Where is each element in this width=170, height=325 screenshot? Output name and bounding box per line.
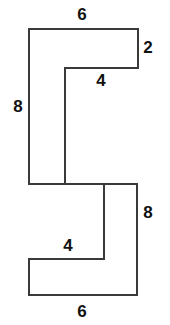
top-width-label: 6 [77, 6, 86, 23]
right-height-label: 8 [143, 204, 152, 221]
top-right-height-label: 2 [143, 39, 152, 56]
left-height-label: 8 [13, 98, 22, 115]
upper-notch-label: 4 [96, 72, 105, 89]
s-polygon-outline [29, 29, 138, 295]
shape-diagram: 6 2 4 8 8 4 6 [0, 0, 170, 325]
lower-notch-label: 4 [63, 237, 72, 254]
bottom-width-label: 6 [77, 303, 86, 320]
